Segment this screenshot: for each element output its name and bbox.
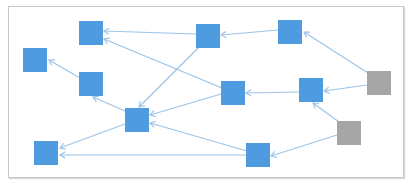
node-B — [79, 21, 103, 45]
node-A — [23, 48, 47, 72]
node-E — [278, 20, 302, 44]
node-F — [221, 81, 245, 105]
edge-J-to-K — [60, 124, 125, 149]
edge-F-to-J — [150, 94, 221, 117]
edge-H-to-G — [324, 85, 367, 93]
edge-H-to-E — [304, 32, 368, 73]
edge-L-to-K — [60, 152, 246, 158]
node-J — [125, 108, 149, 132]
edge-L-to-J — [150, 121, 247, 151]
edge-I-to-L — [271, 135, 337, 157]
edge-G-to-F — [246, 90, 299, 96]
node-H-source — [367, 71, 391, 95]
node-L — [246, 143, 270, 167]
node-G — [299, 78, 323, 102]
edge-D-to-J — [139, 47, 199, 107]
node-K — [34, 141, 58, 165]
node-I-source — [337, 121, 361, 145]
edge-E-to-D — [221, 30, 278, 38]
edge-J-to-C — [93, 96, 125, 111]
node-C — [79, 72, 103, 96]
node-D — [196, 24, 220, 48]
edge-C-to-A — [49, 60, 80, 78]
edge-D-to-B — [104, 28, 196, 34]
edge-I-to-G — [313, 103, 339, 122]
